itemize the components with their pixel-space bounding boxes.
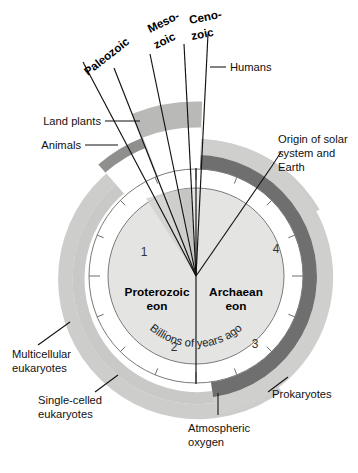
multicellular-eukaryotes-leader	[38, 322, 70, 345]
era-labels-group: Paleozoic Meso- zoic Ceno- zoic	[81, 7, 223, 78]
earth-history-clock-diagram: 1 2 3 4 Proterozoic eon Archaean eon	[0, 0, 358, 473]
atmospheric-oxygen-label-line2: oxygen	[188, 436, 224, 448]
paleozoic-label: Paleozoic	[81, 34, 132, 78]
proterozoic-eon-label-line2: eon	[147, 299, 168, 313]
proterozoic-eon-label-line1: Proterozoic	[125, 285, 190, 299]
land-plants-label: Land plants	[43, 115, 101, 127]
origin-solar-system-label-line2: system and	[278, 147, 335, 159]
animals-label: Animals	[41, 139, 81, 151]
archaean-eon-label-line2: eon	[226, 299, 247, 313]
mesozoic-label-line1: Meso-	[145, 8, 181, 34]
single-celled-eukaryotes-label-line2: eukaryotes	[38, 408, 93, 420]
dial-number-1: 1	[141, 245, 148, 259]
dial-number-4: 4	[273, 242, 280, 256]
cenozoic-label-line1: Ceno-	[188, 7, 223, 26]
archaean-eon-label-line1: Archaean	[209, 285, 263, 299]
origin-solar-system-label-line1: Origin of solar	[278, 133, 348, 145]
humans-label: Humans	[230, 61, 272, 73]
single-celled-eukaryotes-label-line1: Single-celled	[38, 394, 102, 406]
origin-solar-system-label-line3: Earth	[278, 161, 305, 173]
multicellular-eukaryotes-label-line2: eukaryotes	[12, 362, 67, 374]
dial-number-3: 3	[252, 337, 259, 351]
prokaryotes-label: Prokaryotes	[272, 388, 332, 400]
cenozoic-label-line2: zoic	[190, 25, 215, 42]
multicellular-eukaryotes-label-line1: Multicellular	[12, 348, 71, 360]
atmospheric-oxygen-label-line1: Atmospheric	[188, 422, 251, 434]
